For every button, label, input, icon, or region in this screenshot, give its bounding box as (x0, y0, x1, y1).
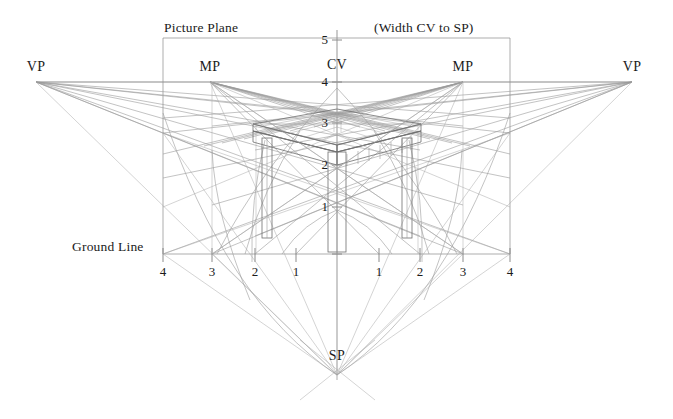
ground-tick-left-3: 3 (209, 265, 216, 278)
picture-plane-caption: Picture Plane (164, 21, 238, 35)
vertical-tick-4: 4 (322, 75, 329, 88)
ground-line-caption: Ground Line (72, 240, 144, 254)
vertical-tick-2: 2 (322, 158, 329, 171)
vertical-tick-3: 3 (322, 116, 329, 129)
center-of-vision-label: CV (327, 58, 347, 72)
ground-tick-right-3: 3 (460, 265, 467, 278)
ground-tick-left-2: 2 (252, 265, 259, 278)
ground-tick-left-1: 1 (293, 265, 300, 278)
ground-tick-left-4: 4 (160, 265, 167, 278)
ground-tick-right-2: 2 (417, 265, 424, 278)
station-point-label: SP (329, 349, 345, 363)
perspective-diagram: .ln { stroke: #9a9a9a; stroke-width: 0.6… (0, 0, 673, 419)
ground-tick-right-4: 4 (507, 265, 514, 278)
ground-tick-right-1: 1 (376, 265, 383, 278)
vanishing-point-left-label: VP (27, 60, 46, 74)
width-cv-to-sp-caption: (Width CV to SP) (374, 21, 474, 35)
measuring-point-left-label: MP (199, 60, 220, 74)
vertical-tick-1: 1 (322, 200, 329, 213)
vanishing-point-right-label: VP (623, 60, 642, 74)
vertical-tick-5: 5 (322, 33, 329, 46)
measuring-point-right-label: MP (452, 60, 473, 74)
